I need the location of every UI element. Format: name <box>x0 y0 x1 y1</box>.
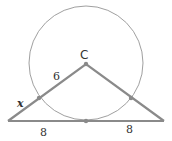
radius-label: 6 <box>53 70 60 83</box>
left-intersection-point <box>37 96 41 100</box>
triangle-sides <box>8 64 164 121</box>
center-point <box>84 62 88 66</box>
external-segment-label: x <box>16 97 24 110</box>
center-label: C <box>80 48 88 62</box>
base-right-label: 8 <box>126 123 133 136</box>
right-intersection-point <box>129 96 133 100</box>
geometry-diagram: C 6 x 8 8 <box>0 0 172 141</box>
base-left-label: 8 <box>40 126 47 139</box>
tangent-point <box>84 119 88 123</box>
